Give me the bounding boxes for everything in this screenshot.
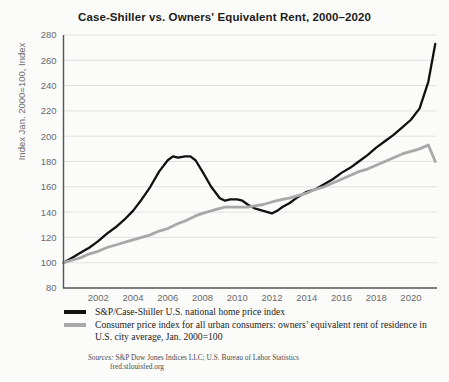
y-tick-label: 160 <box>41 181 57 192</box>
y-tick-label: 120 <box>41 232 57 243</box>
x-tick-label: 2002 <box>88 292 109 303</box>
x-tick-label: 2006 <box>157 292 178 303</box>
y-tick-label: 200 <box>41 131 57 142</box>
y-tick-label: 80 <box>46 282 57 293</box>
source-note: Sources: S&P Dow Jones Indices LLC; U.S.… <box>88 353 428 372</box>
chart-figure: Case-Shiller vs. Owners' Equivalent Rent… <box>0 0 449 382</box>
y-tick-label: 260 <box>41 55 57 66</box>
y-tick-label: 140 <box>41 207 57 218</box>
y-tick-label: 240 <box>41 80 57 91</box>
legend-swatch-case-shiller <box>64 310 86 314</box>
x-tick-label: 2020 <box>400 292 421 303</box>
x-tick-label: 2012 <box>261 292 282 303</box>
y-tick-label: 220 <box>41 105 57 116</box>
x-tick-labels: 2002200420062008201020122014201620182020 <box>88 292 422 303</box>
legend-label-owners-equivalent-rent: Consumer price index for all urban consu… <box>95 319 439 342</box>
x-tick-label: 2010 <box>227 292 248 303</box>
series-line-case-shiller <box>64 44 436 263</box>
source-line1: S&P Dow Jones Indices LLC; U.S. Bureau o… <box>114 353 299 362</box>
series-line-owners-equivalent-rent <box>64 145 436 263</box>
y-tick-label: 100 <box>41 257 57 268</box>
legend-swatch-owners-equivalent-rent <box>64 323 86 327</box>
gridlines <box>64 35 438 263</box>
x-tick-label: 2014 <box>296 292 317 303</box>
y-tick-label: 180 <box>41 156 57 167</box>
x-tick-label: 2008 <box>192 292 213 303</box>
source-line2: fred.stlouisfed.org <box>110 362 428 371</box>
x-tick-label: 2004 <box>122 292 143 303</box>
y-tick-labels: 80100120140160180200220240260280 <box>41 29 57 293</box>
legend-label-case-shiller: S&P/Case-Shiller U.S. national home pric… <box>95 306 285 317</box>
source-prefix: Sources: <box>88 353 114 362</box>
chart-legend: S&P/Case-Shiller U.S. national home pric… <box>64 306 439 344</box>
x-tick-label: 2018 <box>366 292 387 303</box>
y-tick-label: 280 <box>41 29 57 40</box>
data-series-lines <box>64 44 436 263</box>
x-tick-label: 2016 <box>331 292 352 303</box>
legend-item-case-shiller: S&P/Case-Shiller U.S. national home pric… <box>64 306 439 317</box>
legend-item-owners-equivalent-rent: Consumer price index for all urban consu… <box>64 319 439 342</box>
